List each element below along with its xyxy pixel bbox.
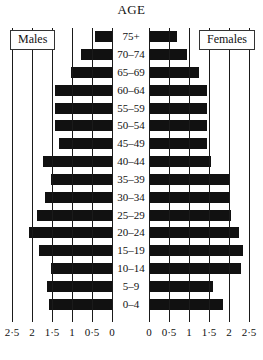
females-axis-tick-labels: 00·511·522·5: [149, 326, 263, 342]
bar-females-65_69: [149, 67, 199, 78]
age-label-25_29: 25–29: [113, 210, 149, 221]
females-tick-label-2.5: 2·5: [242, 326, 257, 339]
males-gridline-2.5: [12, 28, 13, 313]
bar-females-55_59: [149, 103, 207, 114]
bar-females-40_44: [149, 156, 211, 167]
females-axis-ticks: [149, 313, 263, 322]
bar-females-20_24: [149, 227, 239, 238]
bar-row: [149, 227, 263, 238]
age-label-50_54: 50–54: [113, 120, 149, 131]
males-tick-1.5: [52, 313, 53, 322]
females-tick-2.5: [249, 313, 250, 322]
males-axis-ticks: [0, 313, 113, 322]
bar-row: [0, 103, 113, 114]
bar-row: [149, 174, 263, 185]
females-gridline-1: [189, 28, 190, 313]
bar-row: [0, 174, 113, 185]
age-label-0_4: 0–4: [113, 299, 149, 310]
males-axis-tick-labels: 00·511·522·5: [0, 326, 113, 342]
bar-row: [0, 299, 113, 310]
bar-row: [149, 156, 263, 167]
males-plot-area: [0, 28, 113, 313]
females-zero-axis: [149, 28, 150, 313]
bar-row: [0, 156, 113, 167]
bar-males-40_44: [43, 156, 113, 167]
age-label-40_44: 40–44: [113, 156, 149, 167]
bar-males-60_64: [55, 85, 113, 96]
bar-males-10_14: [51, 263, 113, 274]
females-plot-area: [149, 28, 263, 313]
bar-row: [0, 85, 113, 96]
bar-row: [149, 120, 263, 131]
males-gridline-1: [72, 28, 73, 313]
females-gridline-0.5: [169, 28, 170, 313]
age-label-35_39: 35–39: [113, 174, 149, 185]
males-gridline-0.5: [92, 28, 93, 313]
age-label-75+: 75+: [113, 31, 149, 42]
females-tick-0: [149, 313, 150, 322]
bar-row: [0, 67, 113, 78]
females-tick-1.5: [209, 313, 210, 322]
females-tick-0.5: [169, 313, 170, 322]
females-tick-2: [229, 313, 230, 322]
males-tick-label-0.5: 0·5: [85, 326, 100, 339]
males-tick-label-0: 0: [109, 326, 115, 339]
bar-row: [149, 210, 263, 221]
bar-row: [149, 103, 263, 114]
bar-males-5_9: [47, 281, 113, 292]
age-label-55_59: 55–59: [113, 103, 149, 114]
age-label-70_74: 70–74: [113, 49, 149, 60]
males-tick-0.5: [92, 313, 93, 322]
bar-females-50_54: [149, 120, 207, 131]
age-label-5_9: 5–9: [113, 281, 149, 292]
females-tick-label-2: 2: [226, 326, 232, 339]
bar-males-30_34: [45, 192, 113, 203]
bar-row: [0, 138, 113, 149]
females-bar-group: [149, 28, 263, 313]
bar-row: [0, 227, 113, 238]
bar-females-60_64: [149, 85, 207, 96]
bar-males-15_19: [39, 245, 113, 256]
bar-males-50_54: [55, 120, 113, 131]
bar-row: [149, 299, 263, 310]
bar-row: [0, 120, 113, 131]
males-tick-label-2: 2: [29, 326, 35, 339]
population-pyramid-chart: AGE Males Females 75+70–7465–6960–6455–5…: [0, 0, 263, 360]
chart-title: AGE: [0, 2, 263, 18]
bar-row: [149, 67, 263, 78]
bar-females-75+: [149, 31, 177, 42]
females-tick-1: [189, 313, 190, 322]
females-gridline-1.5: [209, 28, 210, 313]
males-tick-2.5: [12, 313, 13, 322]
bar-males-70_74: [81, 49, 113, 60]
males-gridline-2: [32, 28, 33, 313]
males-legend-box: Males: [10, 30, 55, 50]
females-gridline-2: [229, 28, 230, 313]
age-label-65_69: 65–69: [113, 67, 149, 78]
bar-row: [0, 49, 113, 60]
bar-females-10_14: [149, 263, 241, 274]
males-tick-1: [72, 313, 73, 322]
females-tick-label-0: 0: [146, 326, 152, 339]
bar-row: [149, 85, 263, 96]
age-label-20_24: 20–24: [113, 227, 149, 238]
males-gridline-1.5: [52, 28, 53, 313]
females-legend-box: Females: [199, 30, 255, 50]
females-gridline-2.5: [249, 28, 250, 313]
bar-row: [0, 263, 113, 274]
bar-row: [0, 281, 113, 292]
bar-males-20_24: [29, 227, 113, 238]
bar-males-45_49: [59, 138, 113, 149]
males-tick-2: [32, 313, 33, 322]
age-label-60_64: 60–64: [113, 85, 149, 96]
males-bar-group: [0, 28, 113, 313]
age-label-45_49: 45–49: [113, 138, 149, 149]
bar-row: [0, 210, 113, 221]
males-tick-0: [112, 313, 113, 322]
females-tick-label-1: 1: [186, 326, 192, 339]
bar-row: [149, 263, 263, 274]
bar-females-5_9: [149, 281, 213, 292]
bar-row: [149, 49, 263, 60]
bar-females-0_4: [149, 299, 223, 310]
bar-males-0_4: [49, 299, 113, 310]
